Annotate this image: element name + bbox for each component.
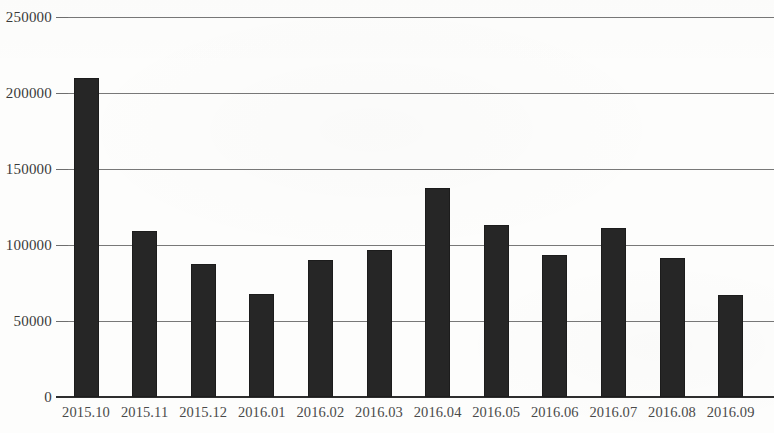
x-axis-tick-label: 2016.03	[355, 405, 403, 420]
x-axis-tick-label: 2015.10	[62, 405, 110, 420]
gridline	[66, 17, 774, 18]
y-axis-tick-label: 250000	[6, 10, 52, 25]
x-axis-tick-label: 2015.11	[121, 405, 168, 420]
bar	[367, 250, 392, 397]
bar	[660, 258, 685, 397]
bar	[601, 228, 626, 397]
y-axis-tick-label: 50000	[14, 314, 53, 329]
chart-page: 050000100000150000200000250000 2015.1020…	[0, 0, 774, 433]
y-axis-tick-label: 150000	[6, 162, 52, 177]
bar	[132, 231, 157, 397]
x-axis-tick-label: 2015.12	[179, 405, 227, 420]
x-axis-tick-label: 2016.08	[648, 405, 696, 420]
x-axis-tick-label: 2016.07	[589, 405, 637, 420]
y-axis-tick-label: 200000	[6, 86, 52, 101]
x-axis-tick-label: 2016.01	[238, 405, 286, 420]
x-axis-tick-label: 2016.04	[414, 405, 462, 420]
y-axis-tick-mark	[56, 321, 68, 322]
bar	[718, 295, 743, 397]
bar	[191, 264, 216, 397]
y-axis-tick-mark	[56, 245, 68, 246]
x-axis-tick-label: 2016.02	[296, 405, 344, 420]
y-axis-tick-mark	[56, 169, 68, 170]
y-axis-tick-mark	[56, 396, 68, 398]
x-axis-tick-label: 2016.05	[472, 405, 520, 420]
y-axis-tick-mark	[56, 17, 68, 18]
gridline	[66, 93, 774, 94]
y-axis-tick-mark	[56, 93, 68, 94]
bar	[74, 78, 99, 397]
y-axis-tick-label: 0	[44, 390, 52, 405]
x-axis-tick-label: 2016.09	[707, 405, 755, 420]
y-axis-tick-label: 100000	[6, 238, 52, 253]
bar	[308, 260, 333, 397]
bar	[484, 225, 509, 397]
bar	[425, 188, 450, 397]
gridline	[66, 245, 774, 246]
bar	[542, 255, 567, 397]
bar-chart: 050000100000150000200000250000 2015.1020…	[0, 0, 774, 433]
bar	[249, 294, 274, 397]
x-axis-tick-label: 2016.06	[531, 405, 579, 420]
gridline	[66, 169, 774, 170]
